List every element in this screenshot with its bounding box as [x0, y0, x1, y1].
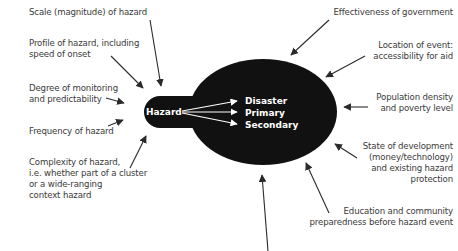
outcome-secondary: Secondary: [245, 119, 298, 131]
outcome-primary: Primary: [245, 107, 285, 119]
hazard-disaster-diagram: Hazard Disaster Primary Secondary Scale …: [0, 0, 458, 251]
factor-monitoring: Degree of monitoring and predictability: [29, 83, 118, 105]
arrow-location: [326, 56, 365, 77]
arrow-government: [291, 20, 329, 55]
hazard-label: Hazard: [146, 106, 182, 118]
factor-development: State of development (money/technology) …: [363, 141, 453, 185]
factor-frequency: Frequency of hazard: [29, 126, 114, 137]
factor-profile: Profile of hazard, including speed of on…: [29, 38, 139, 60]
factor-population: Population density and poverty level: [376, 92, 453, 114]
arrow-development: [335, 144, 357, 158]
factor-government: Effectiveness of government: [334, 7, 453, 18]
arrow-scale: [150, 20, 161, 86]
arrow-bottom: [262, 175, 268, 251]
outcome-disaster: Disaster: [245, 95, 287, 107]
factor-education: Education and community preparedness bef…: [310, 206, 453, 228]
factor-location: Location of event: accessibility for aid: [373, 40, 453, 62]
factor-scale: Scale (magnitude) of hazard: [29, 7, 147, 18]
factor-complexity: Complexity of hazard, i.e. whether part …: [29, 157, 147, 201]
